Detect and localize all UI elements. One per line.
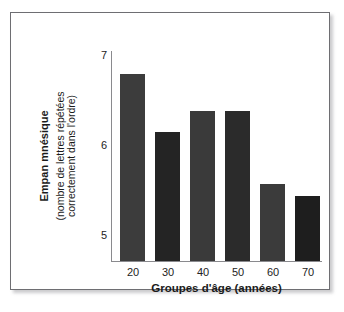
bar bbox=[225, 111, 250, 262]
bar bbox=[155, 132, 180, 261]
x-axis-tick-labels: 20 30 40 50 60 70 bbox=[111, 266, 322, 282]
x-tick-label: 40 bbox=[188, 266, 218, 279]
x-tick-label: 20 bbox=[118, 266, 148, 279]
x-tick-label: 30 bbox=[153, 266, 183, 279]
bar bbox=[120, 74, 145, 261]
y-axis-tick-labels: 7 6 5 bbox=[89, 13, 107, 303]
bar bbox=[260, 184, 285, 261]
y-axis-title: Empan mnésique (nombre de lettres répété… bbox=[37, 51, 83, 261]
x-axis-line bbox=[111, 261, 322, 262]
plot-area bbox=[111, 51, 321, 261]
figure-frame: 7 6 5 20 30 40 50 60 70 Groupes d'âge (a… bbox=[10, 12, 330, 290]
bar bbox=[295, 196, 320, 261]
x-tick-label: 70 bbox=[293, 266, 323, 279]
bar bbox=[190, 111, 215, 262]
figure-root: 7 6 5 20 30 40 50 60 70 Groupes d'âge (a… bbox=[0, 0, 344, 312]
x-tick-label: 50 bbox=[223, 266, 253, 279]
y-tick-label: 6 bbox=[91, 140, 107, 151]
x-tick-label: 60 bbox=[258, 266, 288, 279]
y-tick-label: 5 bbox=[91, 230, 107, 241]
y-tick-label: 7 bbox=[91, 50, 107, 61]
y-axis-title-main: Empan mnésique bbox=[39, 110, 50, 201]
y-axis-title-subline-2: correctement dans l'ordre) bbox=[66, 95, 77, 217]
x-axis-title: Groupes d'âge (années) bbox=[111, 282, 322, 295]
